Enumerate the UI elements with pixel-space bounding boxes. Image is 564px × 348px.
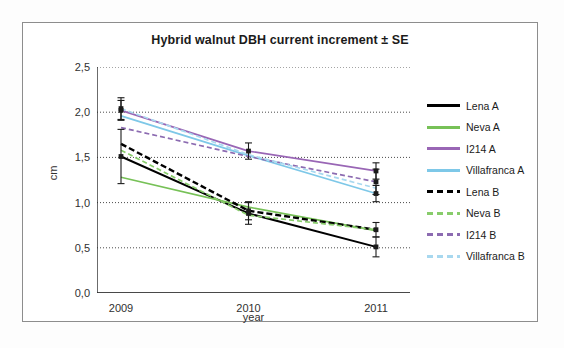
y-axis-tick-label: 2,5 xyxy=(75,61,90,73)
legend-swatch-icon xyxy=(427,190,460,193)
legend-item[interactable]: Neva B xyxy=(427,203,563,225)
legend-label: Lena A xyxy=(466,100,499,112)
legend-label: Villafranca A xyxy=(466,164,524,176)
chart-frame: Hybrid walnut DBH current increment ± SE… xyxy=(22,22,538,322)
legend-label: Villafranca B xyxy=(466,250,525,262)
chart-legend: Lena ANeva AI214 AVillafranca ALena BNev… xyxy=(427,95,563,267)
legend-item[interactable]: Neva A xyxy=(427,117,563,139)
chart-page: Hybrid walnut DBH current increment ± SE… xyxy=(0,0,564,348)
y-axis-tick-label: 1,0 xyxy=(75,197,90,209)
legend-label: I214 A xyxy=(466,143,496,155)
legend-item[interactable]: Lena A xyxy=(427,95,563,117)
legend-label: I214 B xyxy=(466,229,496,241)
legend-item[interactable]: Lena B xyxy=(427,181,563,203)
legend-item[interactable]: Villafranca A xyxy=(427,160,563,182)
legend-swatch-icon xyxy=(427,147,460,150)
y-axis-tick-label: 0,0 xyxy=(75,287,90,299)
legend-label: Lena B xyxy=(466,186,499,198)
legend-swatch-icon xyxy=(427,169,460,172)
legend-swatch-icon xyxy=(427,233,460,236)
legend-label: Neva A xyxy=(466,121,500,133)
y-axis-label: cm xyxy=(47,166,59,181)
y-axis-tick-label: 2,0 xyxy=(75,106,90,118)
y-axis-tick-label: 0,5 xyxy=(75,242,90,254)
y-axis-tick-label: 1,5 xyxy=(75,151,90,163)
legend-label: Neva B xyxy=(466,207,500,219)
legend-swatch-icon xyxy=(427,212,460,215)
chart-title: Hybrid walnut DBH current increment ± SE xyxy=(23,33,537,47)
chart-canvas xyxy=(97,67,410,293)
legend-swatch-icon xyxy=(427,255,460,258)
legend-item[interactable]: Villafranca B xyxy=(427,246,563,268)
legend-item[interactable]: I214 A xyxy=(427,138,563,160)
legend-swatch-icon xyxy=(427,126,460,129)
x-axis-label: year xyxy=(97,311,410,323)
legend-swatch-icon xyxy=(427,104,460,107)
plot-area: 0,00,51,01,52,02,5200920102011 xyxy=(97,67,410,293)
legend-item[interactable]: I214 B xyxy=(427,224,563,246)
